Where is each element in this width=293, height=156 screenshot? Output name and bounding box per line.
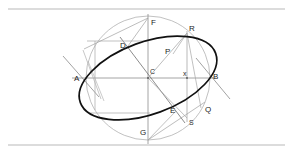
point-marker-x: [186, 77, 188, 79]
ellipse-construction-diagram: A B C D E F G P Q R S x: [0, 0, 293, 156]
page-rules: [8, 9, 285, 145]
label-R: R: [189, 24, 195, 33]
point-marker-C: [147, 77, 149, 79]
trammel-line-left-upper: [83, 50, 101, 99]
label-F: F: [151, 18, 156, 27]
label-x: x: [183, 70, 187, 77]
label-P: P: [165, 47, 170, 56]
label-C: C: [150, 68, 155, 75]
point-labels: A B C D E F G P Q R S x: [74, 18, 218, 137]
chord-F-to-A-side: [84, 18, 148, 49]
label-G: G: [140, 128, 146, 137]
label-E: E: [170, 106, 175, 115]
label-A: A: [74, 74, 80, 83]
label-D: D: [120, 41, 126, 50]
tangent-at-A: [63, 56, 99, 97]
label-B: B: [213, 72, 218, 81]
label-S: S: [189, 119, 194, 126]
radius-C-to-S: [148, 78, 187, 118]
construction-lines: [63, 18, 230, 140]
figure-canvas: A B C D E F G P Q R S x: [0, 0, 293, 156]
label-Q: Q: [205, 105, 211, 114]
